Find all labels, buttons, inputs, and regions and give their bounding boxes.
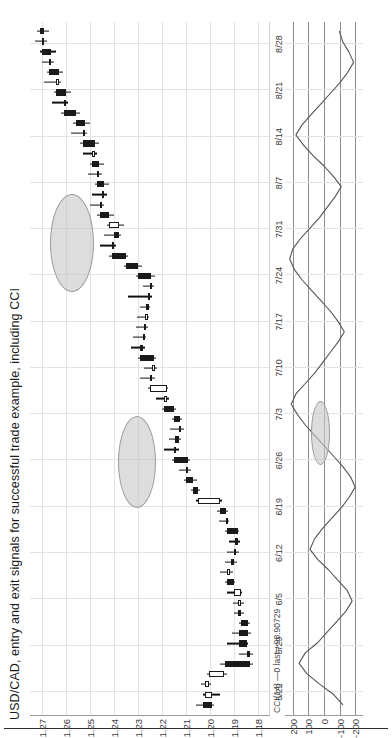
price-axis-tick: 1.24 (109, 719, 120, 738)
candle-body (150, 385, 167, 391)
candle-body (174, 447, 176, 453)
candle-body (49, 69, 59, 75)
candlestick (30, 181, 270, 187)
candlestick (30, 151, 270, 157)
candlestick (30, 59, 270, 65)
candlestick (30, 365, 270, 371)
price-axis-tick: 1.23 (133, 719, 144, 738)
price-axis-tick: 1.22 (157, 719, 168, 738)
candle-body (114, 232, 119, 238)
candle-wick (88, 174, 102, 175)
candle-body (126, 263, 138, 269)
date-axis-tick: 6/12 (274, 544, 284, 562)
candle-body (179, 426, 181, 432)
candle-body (234, 589, 241, 595)
candle-body (174, 416, 180, 422)
candle-body (146, 304, 148, 310)
price-axis-tick: 1.18 (253, 719, 264, 738)
date-axis-tick: 7/17 (274, 313, 284, 331)
cci-axis-tick: 0 (319, 719, 330, 724)
price-axis-tick: 1.20 (205, 719, 216, 738)
candle-body (234, 549, 236, 555)
candle-body (174, 457, 188, 463)
candle-body (241, 620, 248, 626)
candlestick (30, 681, 270, 687)
candle-wick (92, 194, 106, 195)
candle-body (235, 538, 237, 544)
price-panel: 1.271.261.251.241.231.221.211.201.191.18… (30, 22, 270, 716)
candle-body (148, 293, 150, 299)
date-axis-tick: 8/21 (274, 82, 284, 100)
candle-body (145, 314, 147, 320)
candle-body (227, 528, 238, 534)
date-gridline (30, 506, 269, 507)
candle-body (150, 283, 152, 289)
candle-body (112, 242, 114, 248)
candle-body (102, 191, 104, 197)
candlestick (30, 130, 270, 136)
candlestick (30, 396, 270, 402)
candlestick (30, 549, 270, 555)
candle-wick (156, 398, 169, 399)
date-axis-tick: 7/3 (274, 408, 284, 421)
candlestick (30, 406, 270, 412)
date-axis-tick: 7/10 (274, 359, 284, 377)
date-axis-tick: 8/28 (274, 35, 284, 53)
candlestick (30, 671, 270, 677)
candle-body (97, 171, 99, 177)
candlestick (30, 355, 270, 361)
candle-body (164, 396, 166, 402)
candlestick (30, 498, 270, 504)
candle-body (97, 181, 104, 187)
price-axis-tick: 1.19 (229, 719, 240, 738)
candlestick (30, 579, 270, 585)
candle-body (143, 334, 145, 340)
candlestick (30, 324, 270, 330)
candle-body (56, 79, 58, 85)
candle-body (238, 600, 242, 606)
candlestick (30, 559, 270, 565)
candle-body (205, 681, 209, 687)
cci-axis-tick: 100 (303, 719, 314, 735)
candle-body (205, 692, 212, 698)
candle-body (92, 161, 99, 167)
candlestick (30, 345, 270, 351)
candlestick (30, 508, 270, 514)
cci-axis-tick: -200 (350, 719, 361, 738)
cci-label: CCI(14) —0 last=-98.90729 (272, 609, 282, 713)
candle-body (109, 222, 119, 228)
candle-body (193, 487, 198, 493)
date-axis-tick: 8/7 (274, 177, 284, 190)
date-axis-tick: 8/14 (274, 128, 284, 146)
candle-body (76, 120, 86, 126)
candlestick (30, 49, 270, 55)
candlestick (30, 702, 270, 708)
candlestick (30, 692, 270, 698)
candle-body (164, 406, 174, 412)
candle-wick (42, 61, 54, 62)
candle-wick (35, 41, 47, 42)
candlestick (30, 569, 270, 575)
candlestick (30, 304, 270, 310)
date-axis-tick: 7/31 (274, 220, 284, 238)
exit-signal-ellipse (50, 194, 94, 292)
candlestick (30, 140, 270, 146)
cci-axis-tick: 200 (287, 719, 298, 735)
candle-body (238, 610, 242, 616)
date-axis-tick: 6/19 (274, 498, 284, 516)
candlestick (30, 518, 270, 524)
candle-body (209, 671, 225, 677)
candle-body (100, 202, 102, 208)
candle-body (140, 345, 142, 351)
candlestick (30, 89, 270, 95)
candle-body (175, 436, 179, 442)
candle-body (220, 508, 226, 514)
date-axis-tick: 6/26 (274, 452, 284, 470)
candle-body (64, 100, 66, 106)
candlestick (30, 38, 270, 44)
candle-body (42, 49, 52, 55)
candle-body (42, 38, 44, 44)
